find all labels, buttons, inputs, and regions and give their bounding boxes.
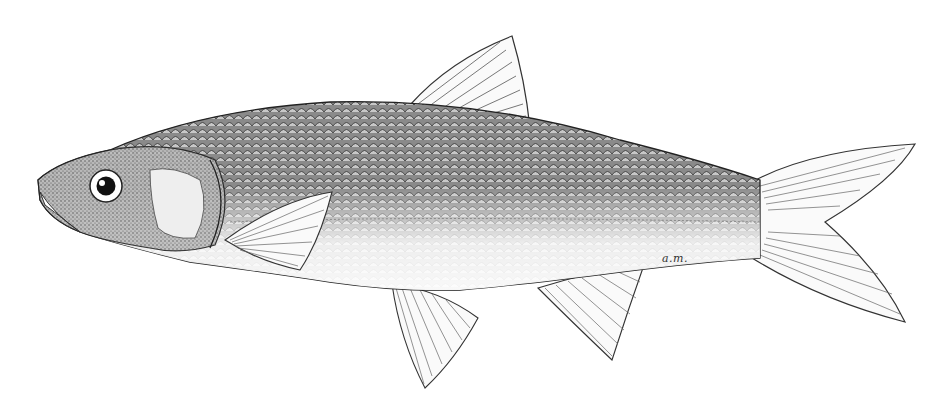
pelvic-fin [392,284,478,388]
eye-icon [90,170,122,202]
caudal-fin [752,144,915,322]
artist-signature: a.m. [662,252,688,265]
fish-head [38,147,225,251]
fish-illustration: a.m. [0,0,942,413]
